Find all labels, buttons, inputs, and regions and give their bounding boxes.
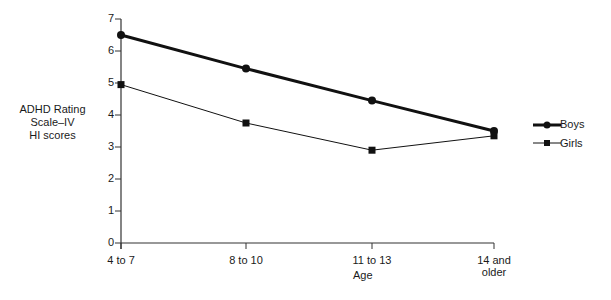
legend-label-girls: Girls: [560, 137, 583, 149]
data-point-circle: [368, 97, 376, 105]
legend-marker-circle: [544, 122, 551, 129]
legend-marker-square: [544, 140, 550, 146]
data-point-circle: [242, 65, 250, 73]
data-point-circle: [117, 31, 125, 39]
line-chart-plot: [0, 0, 611, 300]
series-line-boys: [121, 35, 494, 131]
legend-label-boys: Boys: [560, 118, 584, 130]
data-point-square: [118, 81, 125, 88]
data-point-square: [369, 147, 376, 154]
data-point-square: [243, 120, 250, 127]
data-point-square: [491, 132, 498, 139]
